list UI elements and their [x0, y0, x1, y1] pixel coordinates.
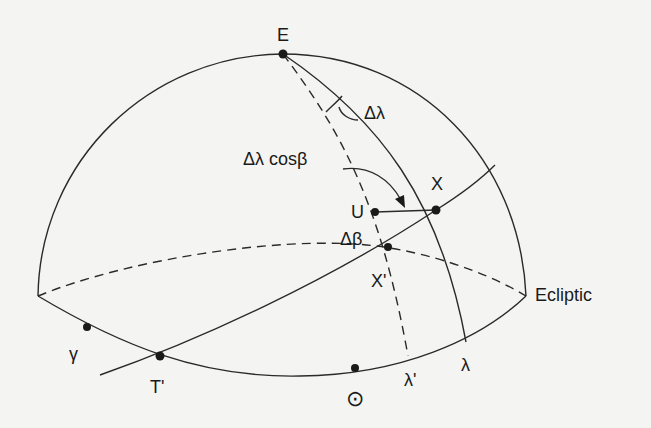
- point-u-dot: [371, 208, 379, 216]
- hemisphere-outline: [38, 54, 526, 296]
- label-x-prime: X': [371, 272, 386, 290]
- point-sun-dot: [351, 364, 359, 372]
- point-e-dot: [279, 50, 288, 59]
- u-to-x-segment: [375, 210, 436, 212]
- cos-beta-arrow: [343, 168, 401, 200]
- arrowhead: [395, 195, 405, 208]
- meridian-lambda: [283, 54, 466, 342]
- label-x: X: [431, 175, 443, 193]
- point-t-prime-dot: [156, 352, 165, 361]
- celestial-sphere-drawing: [0, 0, 651, 428]
- meridian-lambda-prime: [283, 54, 408, 356]
- diagram-canvas: E Δλ Δλ cosβ X U Δβ X' Ecliptic γ T' ⊙ λ…: [0, 0, 651, 428]
- point-x-dot: [432, 206, 441, 215]
- point-x-prime-dot: [384, 243, 392, 251]
- label-t-prime: T': [150, 378, 164, 396]
- label-lambda-prime: λ': [404, 371, 416, 389]
- great-circle-t-prime: [100, 165, 495, 375]
- ecliptic-back-arc: [38, 243, 526, 296]
- label-sun: ⊙: [346, 388, 364, 410]
- label-lambda: λ: [461, 356, 470, 374]
- label-delta-lambda-cos-beta: Δλ cosβ: [243, 150, 307, 168]
- label-delta-beta: Δβ: [340, 230, 362, 248]
- label-gamma: γ: [69, 345, 78, 363]
- label-e: E: [277, 26, 289, 44]
- label-ecliptic: Ecliptic: [535, 286, 592, 304]
- label-delta-lambda: Δλ: [364, 104, 385, 122]
- ecliptic-front-arc: [38, 296, 526, 376]
- point-gamma-dot: [83, 323, 91, 331]
- label-u: U: [351, 203, 364, 221]
